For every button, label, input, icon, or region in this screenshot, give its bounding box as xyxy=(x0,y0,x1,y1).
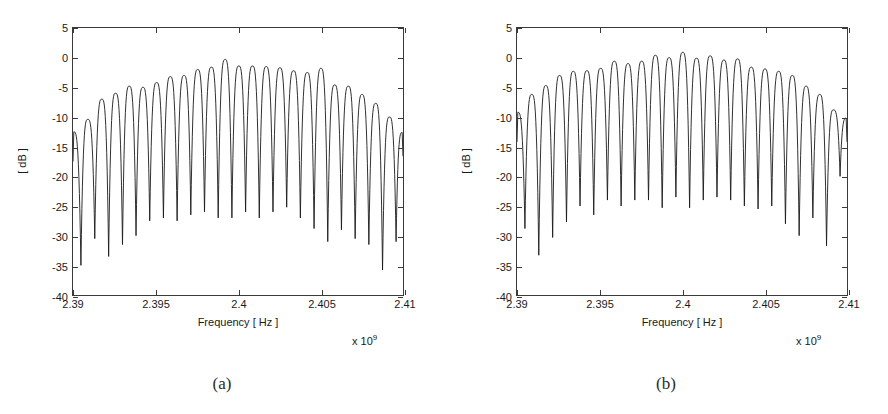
y-tick-mark xyxy=(517,177,522,178)
y-tick-label: -5 xyxy=(58,82,68,93)
y-tick-label: -5 xyxy=(502,82,512,93)
x-tick-mark xyxy=(322,28,323,33)
x-tick-mark xyxy=(517,28,518,33)
y-tick-mark xyxy=(73,58,78,59)
spectrum-trace-a xyxy=(73,28,403,295)
x-tick-mark xyxy=(73,290,74,295)
y-tick-mark xyxy=(73,148,78,149)
x-tick-mark xyxy=(683,28,684,33)
y-tick-label: -20 xyxy=(496,172,512,183)
x-tick-mark xyxy=(239,290,240,295)
figure-panel-a: 50-5-10-15-20-25-30-35-40 2.392.3952.42.… xyxy=(0,0,444,414)
y-tick-mark xyxy=(398,148,403,149)
x-tick-label: 2.4 xyxy=(675,299,690,310)
y-tick-mark xyxy=(842,177,847,178)
y-tick-label: -35 xyxy=(52,262,68,273)
y-tick-label: 0 xyxy=(506,52,512,63)
y-tick-mark xyxy=(398,207,403,208)
y-tick-label: -15 xyxy=(52,142,68,153)
y-tick-label: -10 xyxy=(496,112,512,123)
x-tick-mark xyxy=(600,290,601,295)
x-tick-mark xyxy=(766,28,767,33)
y-tick-label: 0 xyxy=(62,52,68,63)
y-tick-mark xyxy=(842,267,847,268)
plot-area-b: 50-5-10-15-20-25-30-35-40 2.392.3952.42.… xyxy=(516,27,848,296)
x-axis-exponent-base-a: x 10 xyxy=(352,335,373,347)
y-tick-mark xyxy=(842,28,847,29)
figure-root: 50-5-10-15-20-25-30-35-40 2.392.3952.42.… xyxy=(0,0,888,414)
y-tick-mark xyxy=(842,207,847,208)
x-axis-exponent-power-a: 9 xyxy=(373,333,377,342)
y-tick-mark xyxy=(842,237,847,238)
x-tick-mark xyxy=(600,28,601,33)
x-tick-mark xyxy=(239,28,240,33)
y-tick-mark xyxy=(517,267,522,268)
y-tick-label: -30 xyxy=(52,232,68,243)
y-axis-title-a: [ dB ] xyxy=(16,148,28,174)
y-tick-mark xyxy=(398,88,403,89)
y-tick-label: 5 xyxy=(506,23,512,34)
y-tick-mark xyxy=(517,148,522,149)
x-tick-mark xyxy=(517,290,518,295)
y-tick-mark xyxy=(398,177,403,178)
y-tick-mark xyxy=(842,118,847,119)
plot-area-a: 50-5-10-15-20-25-30-35-40 2.392.3952.42.… xyxy=(72,27,404,296)
x-tick-mark xyxy=(683,290,684,295)
x-tick-mark xyxy=(405,28,406,33)
y-tick-mark xyxy=(73,177,78,178)
y-tick-mark xyxy=(398,28,403,29)
y-tick-mark xyxy=(73,118,78,119)
y-axis-title-b: [ dB ] xyxy=(460,148,472,174)
x-tick-label: 2.41 xyxy=(838,299,859,310)
y-tick-mark xyxy=(398,267,403,268)
y-tick-label: -20 xyxy=(52,172,68,183)
x-tick-label: 2.39 xyxy=(506,299,527,310)
y-tick-label: -25 xyxy=(496,202,512,213)
y-tick-mark xyxy=(73,207,78,208)
y-tick-mark xyxy=(517,88,522,89)
y-tick-mark xyxy=(517,207,522,208)
x-tick-mark xyxy=(849,28,850,33)
panel-caption-a: (a) xyxy=(0,374,444,394)
x-tick-mark xyxy=(322,290,323,295)
y-tick-mark xyxy=(73,237,78,238)
y-tick-label: -15 xyxy=(496,142,512,153)
x-axis-exponent-base-b: x 10 xyxy=(796,335,817,347)
y-tick-label: -35 xyxy=(496,262,512,273)
x-tick-label: 2.405 xyxy=(752,299,780,310)
y-tick-mark xyxy=(73,88,78,89)
x-tick-mark xyxy=(849,290,850,295)
x-tick-mark xyxy=(405,290,406,295)
x-tick-label: 2.395 xyxy=(586,299,614,310)
x-axis-title-a: Frequency [ Hz ] xyxy=(72,316,404,328)
x-tick-mark xyxy=(156,290,157,295)
y-tick-label: -30 xyxy=(496,232,512,243)
y-tick-mark xyxy=(73,267,78,268)
y-tick-mark xyxy=(842,88,847,89)
x-tick-mark xyxy=(73,28,74,33)
y-tick-label: -10 xyxy=(52,112,68,123)
y-tick-mark xyxy=(398,237,403,238)
x-tick-mark xyxy=(766,290,767,295)
y-tick-mark xyxy=(517,58,522,59)
figure-panel-b: 50-5-10-15-20-25-30-35-40 2.392.3952.42.… xyxy=(444,0,888,414)
y-tick-label: 5 xyxy=(62,23,68,34)
spectrum-trace-b xyxy=(517,28,847,295)
y-tick-mark xyxy=(398,58,403,59)
x-axis-exponent-b: x 109 xyxy=(796,333,821,347)
y-tick-mark xyxy=(398,118,403,119)
x-tick-mark xyxy=(156,28,157,33)
x-axis-exponent-a: x 109 xyxy=(352,333,377,347)
y-tick-mark xyxy=(517,118,522,119)
x-axis-title-b: Frequency [ Hz ] xyxy=(516,316,848,328)
x-tick-label: 2.395 xyxy=(142,299,170,310)
y-tick-mark xyxy=(842,148,847,149)
x-tick-label: 2.405 xyxy=(308,299,336,310)
x-tick-label: 2.41 xyxy=(394,299,415,310)
x-tick-label: 2.39 xyxy=(62,299,83,310)
x-tick-label: 2.4 xyxy=(231,299,246,310)
y-tick-label: -25 xyxy=(52,202,68,213)
y-tick-mark xyxy=(842,58,847,59)
y-tick-mark xyxy=(517,237,522,238)
x-axis-exponent-power-b: 9 xyxy=(817,333,821,342)
